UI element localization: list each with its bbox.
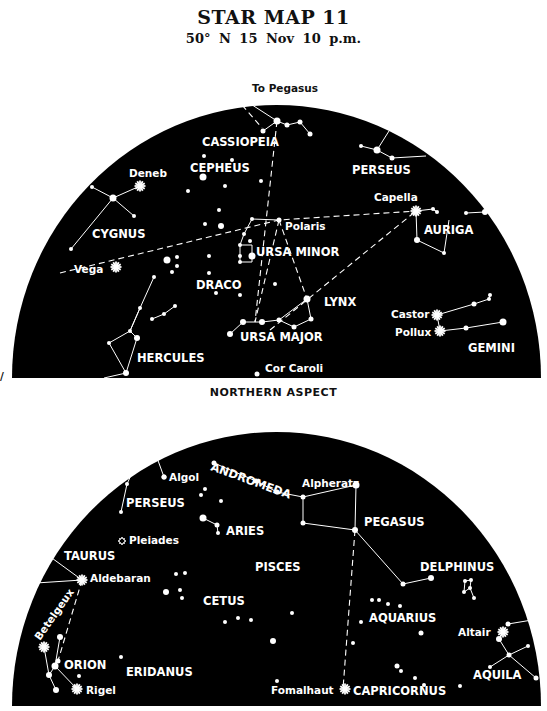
- star: [482, 209, 488, 215]
- star-label-castor: Castor: [391, 308, 430, 320]
- star: [203, 487, 207, 491]
- star: [203, 222, 207, 226]
- star: [506, 622, 511, 627]
- star: [207, 254, 211, 258]
- star: [57, 634, 63, 640]
- star: [259, 179, 263, 183]
- star: [274, 118, 281, 125]
- star: [535, 616, 541, 622]
- star: [217, 208, 221, 212]
- constellation-label-aquarius: AQUARIUS: [369, 611, 436, 625]
- constellation-label-pegasus: PEGASUS: [364, 515, 425, 529]
- star: [240, 319, 246, 325]
- star: [270, 638, 276, 644]
- star: [370, 598, 374, 602]
- constellation-label-perseus: PERSEUS: [126, 496, 185, 510]
- constellation-label-ursa-major: URSA MAJOR: [240, 330, 323, 344]
- star: [487, 297, 491, 301]
- star-label-aldebaran: Aldebaran: [90, 572, 151, 584]
- star: [238, 293, 242, 297]
- star: [395, 664, 400, 669]
- constellation-label-ursa-minor: URSA MINOR: [256, 245, 340, 259]
- star-alpheratz: [301, 495, 306, 500]
- constellation-label-aries: ARIES: [226, 524, 264, 538]
- star: [132, 214, 136, 218]
- star-label-capella: Capella: [374, 191, 418, 203]
- star: [259, 319, 265, 325]
- star: [472, 302, 477, 307]
- constellation-label-orion: ORION: [64, 658, 106, 672]
- star: [162, 312, 166, 316]
- star: [207, 271, 211, 275]
- star: [401, 582, 406, 587]
- star: [374, 147, 381, 154]
- star: [399, 669, 403, 673]
- star: [292, 325, 297, 330]
- star: [119, 655, 123, 659]
- star: [77, 674, 81, 678]
- star: [164, 257, 171, 264]
- star: [468, 586, 472, 590]
- star: [170, 270, 174, 274]
- star: [183, 571, 187, 575]
- star: [178, 588, 182, 592]
- constellation-label-hercules: HERCULES: [137, 351, 205, 365]
- star: [261, 129, 266, 134]
- star: [119, 510, 123, 514]
- star-label-cor-caroli: Cor Caroli: [265, 362, 323, 374]
- star: [199, 493, 203, 497]
- constellation-label-cepheus: CEPHEUS: [190, 161, 250, 175]
- star: [359, 620, 363, 624]
- star: [472, 596, 476, 600]
- constellation-label-eridanus: ERIDANUS: [126, 665, 193, 679]
- star-map: DenebCapellaPolarisVegaCastorPolluxCor C…: [0, 0, 547, 711]
- star: [163, 589, 169, 595]
- star: [507, 653, 512, 658]
- constellation-label-gemini: GEMINI: [468, 341, 515, 355]
- edge-tick-mark: /: [0, 370, 4, 382]
- star: [534, 676, 539, 681]
- to-pegasus-label: To Pegasus: [252, 82, 318, 94]
- star: [250, 217, 254, 221]
- constellation-label-delphinus: DELPHINUS: [420, 560, 494, 574]
- star: [469, 578, 473, 582]
- star: [249, 253, 256, 260]
- star: [236, 616, 240, 620]
- star-label-pollux: Pollux: [395, 326, 432, 338]
- star: [186, 189, 190, 193]
- star: [125, 482, 129, 486]
- star: [431, 207, 435, 211]
- star: [377, 598, 381, 602]
- constellation-label-lynx: LYNX: [324, 295, 356, 309]
- star: [56, 659, 61, 664]
- star: [309, 317, 314, 322]
- star: [301, 521, 306, 526]
- star: [285, 123, 290, 128]
- star: [110, 195, 117, 202]
- star: [463, 579, 467, 583]
- star: [488, 293, 492, 297]
- star: [464, 326, 469, 331]
- star: [390, 156, 395, 161]
- star-algol: [162, 475, 167, 480]
- star: [238, 254, 242, 258]
- star: [46, 672, 52, 678]
- star: [223, 184, 227, 188]
- star: [216, 531, 220, 535]
- star: [248, 239, 252, 243]
- star: [53, 687, 59, 693]
- constellation-label-pisces: PISCES: [255, 560, 301, 574]
- star: [218, 223, 224, 229]
- star: [149, 441, 156, 448]
- constellation-label-capricornus: CAPRICORNUS: [353, 684, 446, 698]
- star: [123, 370, 129, 376]
- star: [298, 120, 303, 125]
- star: [223, 620, 227, 624]
- star: [277, 318, 282, 323]
- star: [175, 255, 179, 259]
- star: [173, 304, 177, 308]
- star-label-polaris: Polaris: [285, 220, 326, 232]
- star-label-pleiades: Pleiades: [129, 534, 179, 546]
- star-polaris: [277, 218, 282, 223]
- southern-sky-map: AlgolAlpheratzPleiadesAldebaranAltairRig…: [12, 431, 541, 706]
